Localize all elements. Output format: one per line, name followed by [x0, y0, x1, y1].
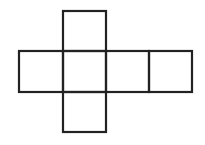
face-center — [63, 51, 106, 92]
cube-net-diagram — [0, 0, 205, 145]
face-right — [106, 51, 149, 92]
face-top — [63, 11, 106, 51]
face-far-right — [149, 51, 192, 92]
face-bottom — [63, 92, 106, 132]
face-left — [19, 51, 63, 92]
